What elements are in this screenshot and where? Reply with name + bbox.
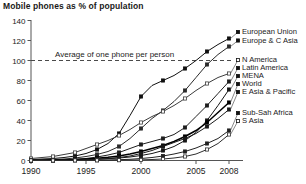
series-marker — [117, 134, 120, 137]
series-marker — [161, 137, 164, 140]
series-marker — [161, 110, 164, 113]
series-latin-america — [29, 80, 230, 162]
series-marker — [227, 101, 230, 104]
legend-marker — [236, 30, 239, 33]
series-marker — [183, 126, 186, 129]
series-line — [31, 82, 229, 161]
series-marker — [161, 145, 164, 148]
series-marker — [51, 159, 54, 162]
reference-line-annotation: Average of one phone per person — [31, 50, 231, 61]
x-tick-label: 2000 — [132, 166, 151, 176]
series-marker — [205, 142, 208, 145]
series-marker — [227, 80, 230, 83]
series-marker — [29, 159, 32, 162]
legend-leader-line — [231, 92, 239, 110]
series-marker — [227, 37, 230, 40]
series-marker — [227, 45, 230, 48]
series-marker — [205, 148, 208, 151]
legend-label-europe-c-asia: Europe & C Asia — [242, 36, 298, 45]
chart-legend: European UnionEurope & C AsiaN AmericaLa… — [231, 27, 299, 135]
series-marker — [205, 104, 208, 107]
legend-marker — [236, 74, 239, 77]
series-marker — [117, 145, 120, 148]
x-tick-label: 2005 — [187, 166, 206, 176]
legend-marker — [236, 39, 239, 42]
legend-marker — [236, 119, 239, 122]
y-tick-label: 80 — [17, 77, 26, 86]
series-marker — [205, 82, 208, 85]
series-world — [29, 101, 230, 162]
legend-marker — [236, 82, 239, 85]
reference-line-label: Average of one phone per person — [55, 50, 174, 59]
series-marker — [73, 159, 76, 162]
series-line — [31, 90, 229, 161]
legend-marker — [236, 66, 239, 69]
series-marker — [73, 151, 76, 154]
series-marker — [95, 159, 98, 162]
series-marker — [139, 95, 142, 98]
chart-container: Mobile phones as % of population 0204060… — [0, 0, 306, 184]
series-marker — [205, 125, 208, 128]
series-marker — [161, 149, 164, 152]
series-marker — [227, 88, 230, 91]
legend-label-e-asia-pacific: E Asia & Pacific — [242, 87, 295, 96]
series-marker — [183, 97, 186, 100]
series-mena — [29, 88, 230, 162]
series-marker — [139, 152, 142, 155]
series-marker — [117, 159, 120, 162]
x-tick-label: 2008 — [220, 166, 239, 176]
y-tick-label: 40 — [17, 117, 26, 126]
series-marker — [95, 148, 98, 151]
series-marker — [183, 67, 186, 70]
series-marker — [139, 158, 142, 161]
y-tick-label: 0 — [21, 157, 26, 166]
series-marker — [139, 143, 142, 146]
x-axis: 19901995200020052008 — [22, 161, 243, 176]
y-tick-label: 100 — [12, 57, 26, 66]
series-marker — [227, 108, 230, 111]
series-marker — [139, 127, 142, 130]
series-europe-c-asia — [29, 45, 230, 162]
series-marker — [183, 155, 186, 158]
chart-plot: 020406080100120140 19901995200020052008 … — [0, 0, 306, 184]
series-marker — [183, 137, 186, 140]
legend-marker — [236, 90, 239, 93]
series-marker — [227, 129, 230, 132]
series-marker — [205, 121, 208, 124]
x-tick-label: 1990 — [22, 166, 41, 176]
y-tick-label: 20 — [17, 137, 26, 146]
series-marker — [227, 133, 230, 136]
series-line — [31, 47, 229, 161]
series-marker — [51, 155, 54, 158]
series-marker — [205, 63, 208, 66]
y-tick-label: 140 — [12, 17, 26, 26]
series-marker — [183, 89, 186, 92]
series-marker — [161, 157, 164, 160]
series-marker — [161, 79, 164, 82]
series-marker — [117, 151, 120, 154]
series-marker — [95, 143, 98, 146]
series-marker — [139, 121, 142, 124]
series-marker — [183, 150, 186, 153]
y-tick-label: 60 — [17, 97, 26, 106]
y-tick-label: 120 — [12, 37, 26, 46]
legend-label-s-asia: S Asia — [242, 116, 264, 125]
x-tick-label: 1995 — [77, 166, 96, 176]
legend-marker — [236, 58, 239, 61]
series-marker — [205, 50, 208, 53]
series-marker — [227, 72, 230, 75]
legend-marker — [236, 111, 239, 114]
y-axis: 020406080100120140 — [12, 17, 31, 166]
